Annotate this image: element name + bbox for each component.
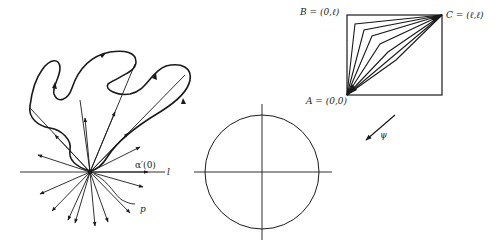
point-p-dot (88, 170, 93, 175)
diagram-canvas: α′(0) l p B = (0,ℓ) C = (ℓ,ℓ) A = (0,0) … (0, 0, 500, 252)
alpha-prime-label: α′(0) (135, 160, 156, 170)
polygonal-paths (347, 15, 442, 95)
closed-curve (30, 51, 191, 171)
circle-figure (194, 104, 332, 240)
square-figure: B = (0,ℓ) C = (ℓ,ℓ) A = (0,0) ψ (299, 7, 484, 140)
l-label: l (167, 167, 170, 177)
label-A: A = (0,0) (305, 96, 348, 106)
p-label: p (140, 204, 146, 214)
label-psi: ψ (380, 130, 388, 140)
curve-figure: α′(0) l p (20, 51, 190, 226)
label-C: C = (ℓ,ℓ) (446, 10, 484, 20)
label-B: B = (0,ℓ) (299, 7, 340, 17)
